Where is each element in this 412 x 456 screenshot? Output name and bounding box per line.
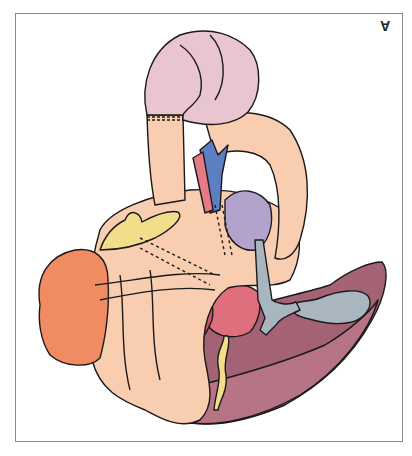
anatomical-illustration — [0, 0, 412, 456]
pink-bowel — [145, 31, 259, 124]
ascending-bowel — [147, 115, 185, 205]
purple-tissue — [225, 191, 272, 250]
orange-organ — [39, 250, 108, 366]
